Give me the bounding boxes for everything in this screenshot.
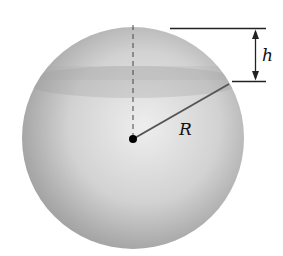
arrow-down-icon [252, 71, 259, 81]
center-dot [129, 135, 137, 143]
radius-label: R [178, 119, 192, 139]
height-label: h [262, 45, 273, 65]
arrow-up-icon [252, 30, 259, 40]
sphere-cap-diagram: h R [0, 0, 283, 256]
